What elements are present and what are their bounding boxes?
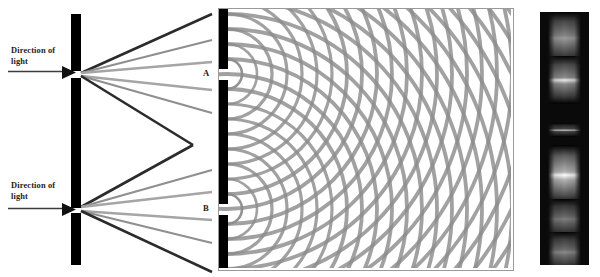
fringe-band xyxy=(548,56,581,104)
fringe-photograph-svg xyxy=(540,12,589,265)
wavefront-ring xyxy=(219,134,302,268)
barrier-with-slits xyxy=(71,14,81,265)
incoming-light-arrow-top xyxy=(8,66,76,79)
ray-diagram-panel: Direction of light Direction of light xyxy=(0,0,215,277)
interference-fringe-photograph xyxy=(540,12,589,265)
fringe-band xyxy=(548,123,581,137)
wavefront-interference-svg xyxy=(219,9,511,268)
ray-diagram-svg xyxy=(0,0,215,277)
ray-fan-top-slit xyxy=(81,14,212,145)
incoming-light-arrow-bottom xyxy=(8,203,76,216)
slit-label-b: B xyxy=(203,203,209,213)
ray-fan-bottom-slit xyxy=(81,145,212,272)
double-slit-figure: Direction of light Direction of light A … xyxy=(0,0,600,277)
direction-of-light-label-bottom: Direction of light xyxy=(11,181,55,202)
fringe-band xyxy=(548,145,581,205)
fringe-band xyxy=(548,232,581,265)
slit-label-a: A xyxy=(203,68,209,78)
wave-panel-barrier xyxy=(219,9,228,268)
wavefront-interference-panel xyxy=(218,8,514,271)
direction-of-light-label-top: Direction of light xyxy=(11,46,55,67)
